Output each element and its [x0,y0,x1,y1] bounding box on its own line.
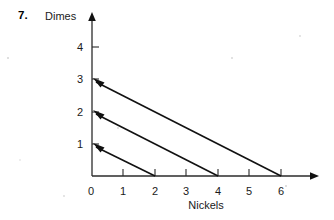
y-axis-ticks [92,47,99,144]
y-axis [88,12,96,176]
graph-figure: 7. Dimes Nickels [0,0,334,220]
x-tick-label-3: 3 [183,185,189,197]
scan-noise [7,35,301,197]
y-axis-arrow-icon [88,12,96,21]
x-tick-label-0: 0 [88,185,94,197]
x-tick-label-4: 4 [215,185,221,197]
data-line-1 [93,143,155,176]
x-axis [92,172,319,180]
x-tick-label-2: 2 [152,185,158,197]
y-tick-label-2: 2 [77,106,83,118]
x-tick-label-6: 6 [278,185,284,197]
x-axis-arrow-icon [310,172,319,180]
y-tick-label-4: 4 [77,41,83,53]
y-tick-label-1: 1 [77,138,83,150]
data-line-2 [93,110,218,176]
y-tick-label-3: 3 [77,73,83,85]
x-tick-label-1: 1 [120,185,126,197]
x-tick-label-5: 5 [246,185,252,197]
plot-canvas: 4 3 2 1 0 1 2 3 4 5 6 [0,0,334,220]
